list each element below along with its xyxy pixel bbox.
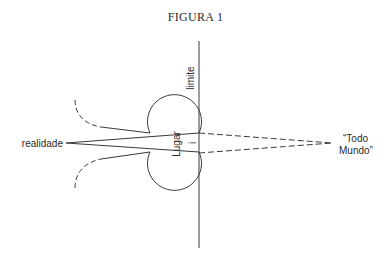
upper-outer-solid [101,127,150,133]
realidade-label: realidade [22,138,64,149]
lugar-label: Lugar [171,131,182,157]
i-label: i [187,142,198,144]
world-line-upper [199,133,332,143]
world-line-lower [199,143,332,153]
diagram: realidade limite Lugar i “Todo Mundo” [0,0,391,259]
limite-label: limite [185,66,196,90]
todo-mundo-label-line1: “Todo [343,133,368,144]
todo-mundo-label-line2: Mundo” [339,145,373,156]
lower-outer-dashed [75,159,101,188]
lower-outer-solid [101,152,150,159]
upper-outer-dashed [75,100,101,127]
